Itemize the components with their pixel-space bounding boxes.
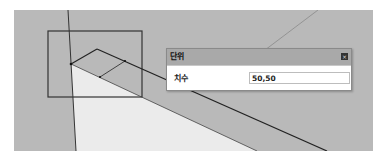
dimension-input[interactable]: [249, 72, 350, 84]
dimension-dialog: 단위 × 치수: [166, 48, 352, 91]
guide-line: [265, 10, 318, 50]
edge-cross: [100, 61, 125, 77]
vertex-point: [124, 60, 126, 62]
close-icon[interactable]: ×: [341, 53, 348, 60]
dimension-row: 치수: [167, 66, 351, 90]
dialog-title-bar[interactable]: 단위 ×: [167, 49, 351, 66]
vertex-point: [99, 76, 101, 78]
edge-left-top: [71, 49, 97, 64]
dialog-title: 단위: [170, 49, 184, 65]
vertex-point: [70, 63, 73, 66]
dimension-label: 치수: [174, 72, 188, 83]
